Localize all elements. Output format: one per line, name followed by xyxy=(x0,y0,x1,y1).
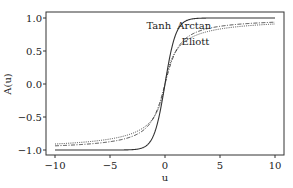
x-axis-label: u xyxy=(162,172,169,183)
y-tick-label: 1.0 xyxy=(26,13,42,24)
chart: −10−50510 −1.0−0.50.00.51.0 u A(u) TanhA… xyxy=(0,0,293,188)
y-tick-label: −0.5 xyxy=(18,112,42,123)
x-axis-ticks: −10−50510 xyxy=(44,155,281,171)
annotation-eliott: Eliott xyxy=(182,36,210,47)
y-tick-label: 0.0 xyxy=(26,79,42,90)
plot-area xyxy=(55,18,275,150)
series-eliott-line xyxy=(55,24,275,144)
y-tick-label: −1.0 xyxy=(18,145,42,156)
y-tick-label: 0.5 xyxy=(26,46,42,57)
y-axis-label: A(u) xyxy=(2,73,13,96)
x-tick-label: 5 xyxy=(217,160,223,171)
x-tick-label: 0 xyxy=(162,160,168,171)
x-tick-label: 10 xyxy=(269,160,282,171)
y-axis-ticks: −1.0−0.50.00.51.0 xyxy=(18,13,46,156)
x-tick-label: −5 xyxy=(103,160,118,171)
annotation-tanh: Tanh xyxy=(146,20,171,31)
annotation-arctan: Arctan xyxy=(176,20,212,31)
x-tick-label: −10 xyxy=(44,160,65,171)
curve-annotations: TanhArctanEliott xyxy=(146,20,211,47)
